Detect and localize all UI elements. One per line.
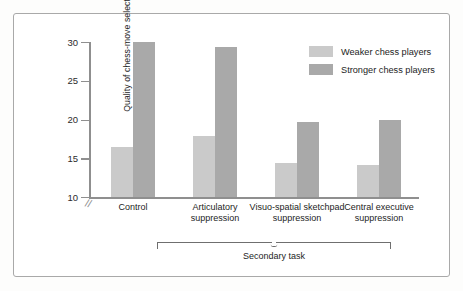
bar-central-executive-weaker — [357, 165, 379, 197]
legend-swatch-stronger — [309, 64, 333, 75]
legend-label-weaker: Weaker chess players — [341, 47, 431, 57]
figure-frame: Quality of chess-move selection 10 15 20… — [13, 13, 450, 277]
y-tick-25: 25 — [81, 81, 90, 82]
x-axis-title: Secondary task — [157, 251, 391, 261]
bar-control-weaker — [111, 147, 133, 197]
bar-visuospatial-stronger — [297, 122, 319, 197]
x-axis-line — [89, 197, 419, 199]
legend-swatch-weaker — [309, 46, 333, 57]
y-tick-label-25: 25 — [67, 77, 78, 87]
bracket-top-right — [276, 242, 391, 243]
secondary-task-bracket: Secondary task — [157, 242, 391, 250]
bracket-top-left — [157, 242, 272, 243]
legend-label-stronger: Stronger chess players — [341, 65, 435, 75]
bar-central-executive-stronger — [379, 120, 401, 198]
y-tick-label-30: 30 — [67, 38, 78, 48]
y-tick-label-10: 10 — [67, 193, 78, 203]
bar-articulatory-stronger — [215, 47, 237, 197]
legend: Weaker chess players Stronger chess play… — [309, 44, 435, 80]
bracket-center-notch — [271, 242, 278, 247]
y-tick-20: 20 — [81, 120, 90, 121]
bar-control-stronger — [133, 42, 155, 197]
bar-visuospatial-weaker — [275, 163, 297, 197]
bar-articulatory-weaker — [193, 136, 215, 197]
legend-item-stronger: Stronger chess players — [309, 62, 435, 77]
x-category-label-central-executive: Central executive suppression — [331, 202, 427, 224]
y-tick-label-20: 20 — [67, 115, 78, 125]
y-tick-15: 15 — [81, 158, 90, 159]
legend-item-weaker: Weaker chess players — [309, 44, 435, 59]
y-tick-30: 30 — [81, 42, 90, 43]
y-tick-label-15: 15 — [67, 154, 78, 164]
